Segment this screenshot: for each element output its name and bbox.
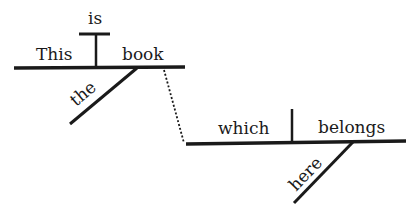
word-is: is [88, 8, 102, 28]
word-book: book [122, 44, 164, 64]
word-which: which [218, 118, 269, 138]
word-this: This [36, 44, 72, 64]
sentence-diagram: is This book the which belongs here [0, 0, 415, 214]
relative-baseline [186, 141, 406, 144]
diagram-svg: is This book the which belongs here [0, 0, 415, 214]
word-belongs: belongs [318, 117, 385, 137]
relative-connector [164, 70, 184, 143]
main-baseline [14, 67, 185, 68]
word-here: here [284, 153, 326, 195]
